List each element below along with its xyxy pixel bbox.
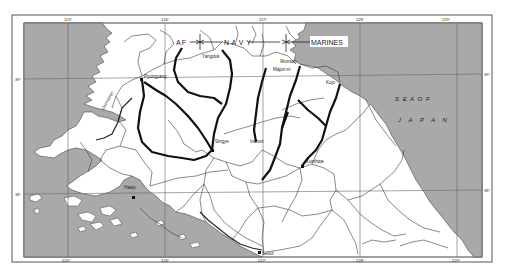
sea-label-line1: S E A O F	[395, 96, 431, 102]
city-label-pyongyang: Pyongyang	[144, 74, 167, 79]
lon-top-128: 128°	[356, 17, 365, 22]
korea-interdiction-map: AF N A V Y MARINES Pyongyang Yangdok Won…	[0, 0, 506, 277]
city-marker-seoul	[258, 251, 261, 254]
city-marker-haeju	[132, 196, 135, 199]
lon-bottom-129: 129°	[452, 258, 461, 263]
lat-left-38: 38°	[15, 192, 21, 197]
zone-label-af: AF	[176, 39, 187, 46]
lon-top-125: 125°	[64, 17, 73, 22]
city-label-wonsan: Wonsan	[280, 59, 297, 64]
lat-right-38: 38°	[484, 188, 490, 193]
city-label-seoul: Seoul	[262, 251, 274, 256]
lon-bottom-128: 128°	[356, 258, 365, 263]
city-label-yangdok: Yangdok	[202, 54, 220, 59]
lon-bottom-126: 126°	[161, 258, 170, 263]
city-label-inchon: Inchon	[250, 139, 264, 144]
city-label-haeju: Haeju	[124, 185, 136, 190]
city-marker-kumhwa	[301, 165, 304, 168]
zone-label-marines: MARINES	[311, 39, 343, 46]
zone-label-navy: N A V Y	[224, 39, 252, 46]
lon-top-126: 126°	[161, 17, 170, 22]
sea-label-line2: J A P A N	[397, 117, 450, 123]
map-canvas: AF N A V Y MARINES Pyongyang Yangdok Won…	[0, 0, 506, 277]
city-label-singye: Singye	[215, 139, 229, 144]
city-label-kojo: Kojo	[326, 80, 336, 85]
city-marker-pyongyang	[140, 78, 143, 81]
lat-right-39: 39°	[484, 72, 490, 77]
city-label-kumhwa: Kumhwa	[306, 159, 324, 164]
lon-top-129: 129°	[442, 17, 451, 22]
lon-bottom-125: 125°	[62, 258, 71, 263]
city-marker-singye	[211, 149, 214, 152]
lon-top-127: 127°	[259, 17, 268, 22]
lon-bottom-127: 127°	[258, 258, 267, 263]
lat-left-39: 39°	[15, 77, 21, 82]
city-label-majon-ni: Majon-ni	[273, 67, 290, 72]
